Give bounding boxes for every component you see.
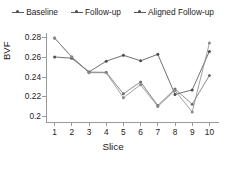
legend-item-aligned-follow-up[interactable]: Aligned Follow-up bbox=[134, 8, 214, 17]
data-point bbox=[156, 105, 159, 108]
data-point bbox=[208, 74, 211, 77]
series-follow-up bbox=[53, 37, 211, 107]
data-point bbox=[139, 83, 142, 86]
data-point bbox=[139, 80, 142, 83]
data-point bbox=[105, 71, 108, 74]
legend-marker-icon bbox=[71, 8, 83, 17]
y-axis-tick-label: 0.24 bbox=[25, 73, 41, 82]
data-point bbox=[88, 71, 91, 74]
y-axis-title: BVF bbox=[1, 42, 12, 60]
y-axis-tick bbox=[42, 116, 46, 117]
data-point bbox=[191, 111, 194, 114]
data-point bbox=[53, 37, 56, 40]
x-axis-tick bbox=[89, 122, 90, 126]
data-point bbox=[88, 70, 91, 73]
x-axis-tick bbox=[123, 122, 124, 126]
series-line bbox=[55, 51, 210, 94]
data-point bbox=[174, 89, 177, 92]
data-point bbox=[53, 37, 56, 40]
series-line bbox=[55, 38, 210, 105]
y-axis-tick bbox=[42, 77, 46, 78]
x-axis-tick bbox=[106, 122, 107, 126]
y-axis-tick bbox=[42, 37, 46, 38]
data-point bbox=[122, 92, 125, 95]
data-point bbox=[122, 54, 125, 57]
chart-container: Baseline Follow-up Aligned Follow-up 0.2… bbox=[0, 0, 226, 169]
data-point bbox=[105, 60, 108, 63]
data-point bbox=[156, 104, 159, 107]
legend-label: Follow-up bbox=[85, 8, 121, 17]
data-point bbox=[70, 57, 73, 60]
x-axis-tick bbox=[54, 122, 55, 126]
y-axis-tick-label: 0.28 bbox=[25, 33, 41, 42]
data-point bbox=[191, 103, 194, 106]
series-line bbox=[55, 38, 210, 112]
data-point bbox=[174, 87, 177, 90]
y-axis-tick-label: 0.26 bbox=[25, 53, 41, 62]
data-point bbox=[156, 53, 159, 56]
x-axis-tick bbox=[71, 122, 72, 126]
data-point bbox=[105, 71, 108, 74]
data-point bbox=[208, 50, 211, 53]
data-point bbox=[122, 96, 125, 99]
y-axis-tick-label: 0.22 bbox=[25, 92, 41, 101]
y-axis-tick-label: 0.2 bbox=[29, 112, 41, 121]
data-point bbox=[139, 59, 142, 62]
x-axis-tick-label: 10 bbox=[199, 127, 219, 137]
y-axis-line bbox=[46, 33, 47, 122]
data-point bbox=[70, 56, 73, 59]
series-baseline bbox=[53, 50, 211, 96]
x-axis-tick bbox=[192, 122, 193, 126]
legend-item-follow-up[interactable]: Follow-up bbox=[71, 8, 121, 17]
series-aligned-follow-up bbox=[53, 37, 211, 114]
legend-marker-icon bbox=[134, 8, 146, 17]
x-axis-tick bbox=[157, 122, 158, 126]
data-point bbox=[88, 71, 91, 74]
x-axis-tick bbox=[209, 122, 210, 126]
x-axis-tick bbox=[175, 122, 176, 126]
y-axis-tick bbox=[42, 96, 46, 97]
legend-label: Aligned Follow-up bbox=[148, 8, 214, 17]
data-point bbox=[53, 55, 56, 58]
x-axis-title: Slice bbox=[0, 141, 226, 152]
data-point bbox=[208, 41, 211, 44]
data-point bbox=[174, 93, 177, 96]
data-point bbox=[191, 88, 194, 91]
y-axis-tick bbox=[42, 57, 46, 58]
x-axis-tick bbox=[140, 122, 141, 126]
data-point bbox=[70, 56, 73, 59]
